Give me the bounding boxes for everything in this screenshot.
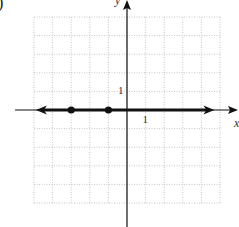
x-tick-label: 1 [143, 114, 149, 125]
y-tick-label: 1 [118, 85, 124, 96]
y-axis-label: y [115, 0, 120, 6]
solution-point [68, 106, 75, 113]
coordinate-plane [0, 0, 239, 227]
plot-series [36, 106, 215, 115]
x-axis-label: x [234, 117, 239, 129]
solution-point [105, 106, 112, 113]
